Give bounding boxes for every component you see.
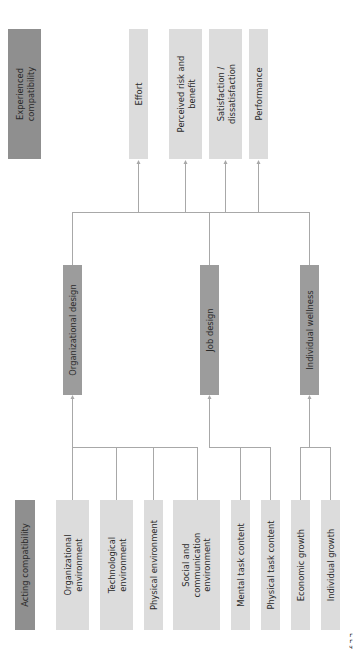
experienced-compatibility-header: Experienced compatibility — [8, 29, 41, 159]
design-label: Organizational design — [67, 284, 78, 375]
factor-physical-task-content: Physical task content — [261, 500, 280, 630]
outcome-label: Perceived risk and benefit — [175, 56, 196, 133]
factor-technological-environment: Technological environment — [100, 500, 133, 630]
factor-individual-growth: Individual growth — [321, 500, 340, 630]
outcome-satisfaction: Satisfaction / dissatisfaction — [209, 29, 242, 159]
factor-label: Physical task content — [265, 520, 276, 609]
design-individual-wellness: Individual wellness — [300, 265, 319, 395]
factor-label: Mental task content — [235, 523, 246, 606]
factor-social-communication-environment: Social and communication environment — [173, 500, 220, 630]
corner-mark-text: r r ч — [349, 632, 355, 650]
outcome-label: Satisfaction / dissatisfaction — [215, 64, 236, 124]
factor-physical-environment: Physical environment — [144, 500, 163, 630]
factor-economic-growth: Economic growth — [291, 500, 310, 630]
factor-label: Individual growth — [325, 529, 336, 602]
outcome-effort: Effort — [129, 29, 148, 159]
factor-mental-task-content: Mental task content — [231, 500, 250, 630]
outcome-performance: Performance — [249, 29, 268, 159]
outcome-perceived-risk-benefit: Perceived risk and benefit — [169, 29, 202, 159]
experienced-compatibility-label: Experienced compatibility — [14, 67, 35, 121]
outcome-label: Performance — [253, 67, 264, 120]
factor-label: Social and communication environment — [181, 533, 213, 598]
acting-compatibility-header: Acting compatibility — [15, 500, 35, 630]
outcome-label: Effort — [133, 83, 144, 106]
design-job: Job design — [200, 265, 219, 395]
factor-label: Technological environment — [106, 537, 127, 593]
design-label: Individual wellness — [304, 290, 315, 369]
design-label: Job design — [204, 308, 215, 351]
acting-compatibility-label: Acting compatibility — [20, 523, 31, 607]
design-organizational: Organizational design — [63, 265, 82, 395]
factor-label: Economic growth — [295, 529, 306, 601]
corner-mark: r r ч — [349, 632, 355, 650]
factor-label: Physical environment — [148, 520, 159, 610]
factor-organizational-environment: Organizational environment — [56, 500, 89, 630]
factor-label: Organizational environment — [62, 534, 83, 595]
